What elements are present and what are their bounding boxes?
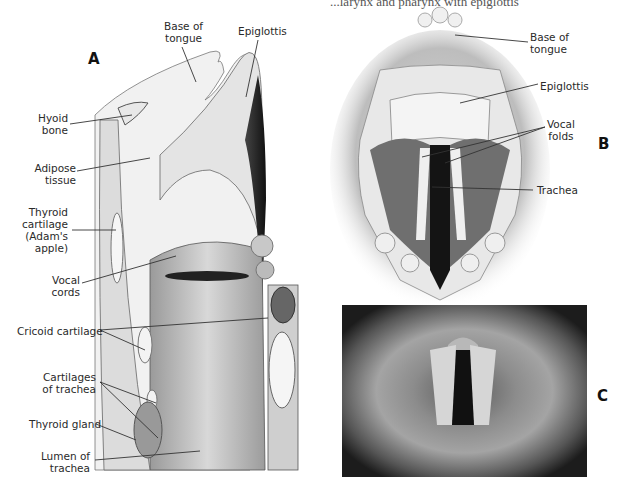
label-a-epiglottis: Epiglottis	[238, 25, 287, 37]
label-b-vocal-folds: Vocal folds	[547, 118, 575, 142]
label-a-thyroid-gland: Thyroid gland	[29, 418, 101, 430]
label-a-cricoid-cartilage: Cricoid cartilage	[17, 325, 103, 337]
label-a-hyoid-bone: Hyoid bone	[38, 112, 68, 136]
panel-letter-c: C	[597, 387, 608, 405]
label-a-lumen-of-trachea: Lumen of trachea	[40, 450, 90, 474]
label-a-base-of-tongue: Base of tongue	[164, 20, 203, 44]
panel-letter-a: A	[88, 50, 100, 68]
label-b-epiglottis: Epiglottis	[540, 80, 589, 92]
panel-letter-b: B	[598, 135, 609, 153]
label-b-base-of-tongue: Base of tongue	[530, 31, 569, 55]
label-a-cartilages-of-trachea: Cartilages of trachea	[40, 371, 96, 395]
label-b-trachea: Trachea	[537, 184, 578, 196]
label-a-vocal-cords: Vocal cords	[50, 274, 80, 298]
label-a-adipose-tissue: Adipose tissue	[24, 162, 76, 186]
label-a-thyroid-cartilage: Thyroid cartilage (Adam's apple)	[18, 206, 68, 254]
